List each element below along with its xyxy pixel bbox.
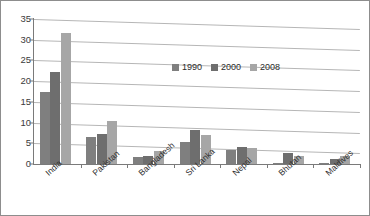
legend-swatch-2000	[211, 64, 218, 71]
x-axis-tick-mark	[360, 164, 361, 168]
bar-group	[86, 19, 117, 164]
bar-group	[319, 19, 350, 164]
bar-pakistan-1990	[86, 137, 96, 164]
bar-india-2000	[50, 72, 60, 164]
y-axis-tick-label: 20	[5, 76, 31, 86]
x-axis-tick-mark	[174, 164, 175, 168]
y-axis-tick-label: 15	[5, 97, 31, 107]
bar-india-1990	[40, 92, 50, 165]
bar-bangladesh-1990	[133, 157, 143, 164]
bar-group	[226, 19, 257, 164]
bar-group	[180, 19, 211, 164]
legend-label-1990: 1990	[182, 62, 202, 72]
y-axis-tick-label: 35	[5, 14, 31, 24]
legend-item-2008: 2008	[250, 62, 280, 72]
x-axis-tick-mark	[127, 164, 128, 168]
bar-groups	[34, 19, 360, 164]
x-axis-tick-mark	[220, 164, 221, 168]
x-axis-tick-mark	[267, 164, 268, 168]
legend-label-2000: 2000	[221, 62, 241, 72]
x-axis-tick-mark	[313, 164, 314, 168]
bar-bhutan-1990	[273, 163, 283, 164]
bar-maldives-1990	[319, 163, 329, 164]
y-axis-tick-label: 10	[5, 118, 31, 128]
legend-swatch-1990	[172, 64, 179, 71]
bar-sri-lanka-1990	[180, 142, 190, 164]
bar-chart: 05101520253035 199020002008 IndiaPakista…	[0, 0, 370, 216]
legend-item-1990: 1990	[172, 62, 202, 72]
y-axis-tick-label: 0	[5, 159, 31, 169]
x-axis-tick-mark	[81, 164, 82, 168]
legend-swatch-2008	[250, 64, 257, 71]
legend-label-2008: 2008	[260, 62, 280, 72]
bar-nepal-1990	[226, 150, 236, 164]
y-axis-tick-label: 30	[5, 35, 31, 45]
y-axis-tick-labels: 05101520253035	[1, 1, 31, 216]
bar-india-2008	[61, 33, 71, 164]
bar-group	[273, 19, 304, 164]
bar-group	[133, 19, 164, 164]
y-axis-tick-label: 25	[5, 56, 31, 66]
legend-item-2000: 2000	[211, 62, 241, 72]
y-axis-tick-label: 5	[5, 139, 31, 149]
chart-legend: 199020002008	[172, 62, 280, 72]
bar-group	[40, 19, 71, 164]
